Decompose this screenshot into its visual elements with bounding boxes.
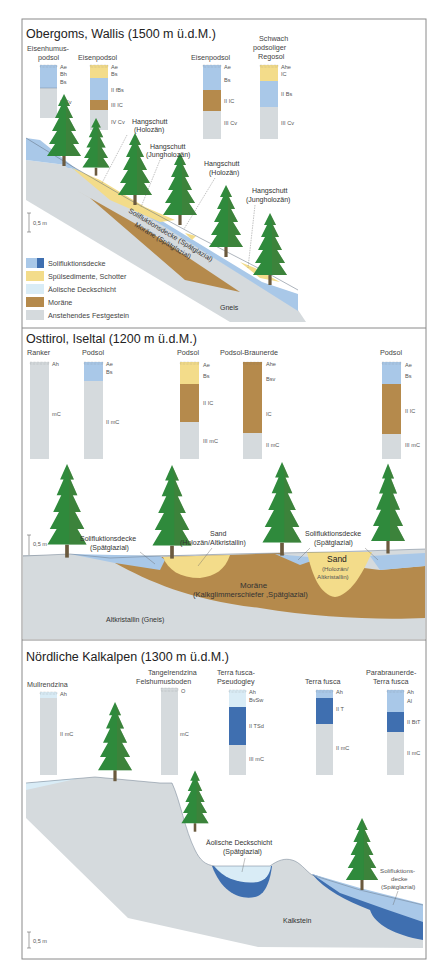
svg-text:II mC: II mC <box>266 442 279 448</box>
svg-text:(Holozän/Altkristallin): (Holozän/Altkristallin) <box>180 539 246 547</box>
svg-text:Ah: Ah <box>249 689 256 695</box>
svg-text:Bsv: Bsv <box>266 376 276 382</box>
svg-text:(Spätglazial): (Spätglazial) <box>223 848 262 856</box>
soil-profile: Parabraunerde- Terra fusca Ah Al II BtT … <box>366 668 421 775</box>
horizon-label: Bh <box>60 71 67 77</box>
svg-text:Ah: Ah <box>60 691 67 697</box>
svg-text:(Holozän/: (Holozän/ <box>322 565 349 572</box>
profile-name: podsol <box>38 53 60 62</box>
svg-text:Parabraunerde-: Parabraunerde- <box>366 668 417 677</box>
soil-profile: Tangelrendzina Felshumusboden O mC <box>136 668 197 775</box>
profile-name: Schwach <box>259 34 288 43</box>
svg-text:Pseudogley: Pseudogley <box>217 677 255 686</box>
soil-profile: Terra fusca Ah II T II mC <box>305 677 349 775</box>
svg-text:Ae: Ae <box>106 361 113 367</box>
svg-text:Äolische Deckschicht: Äolische Deckschicht <box>206 839 272 846</box>
svg-text:Hangschutt: Hangschutt <box>150 143 185 151</box>
horizon-label: Ae <box>111 64 118 70</box>
horizon-label: III Cv <box>281 120 294 126</box>
svg-text:IC: IC <box>266 411 272 417</box>
soil-profile: Ranker Ah mC <box>27 348 61 459</box>
horizon-label: IC <box>281 71 287 77</box>
svg-text:(Jungholozän): (Jungholozän) <box>146 151 190 159</box>
panel-title: Nördliche Kalkalpen (1300 m ü.d.M.) <box>26 650 229 664</box>
horizon-label: Ae <box>224 64 231 70</box>
horizon-label: III IC <box>111 102 123 108</box>
panel-title: Obergoms, Wallis (1500 m ü.d.M.) <box>26 27 216 41</box>
svg-text:BvSw: BvSw <box>249 697 264 703</box>
profile-name: Eisenpodsol <box>191 53 231 62</box>
layer-label: Gneis <box>220 304 239 311</box>
svg-text:(Holozän): (Holozän) <box>134 126 164 134</box>
svg-text:Solifluktionsdecke: Solifluktionsdecke <box>305 530 361 537</box>
soil-profile: Podsol-Braunerde Ahe Bsv IC II mC <box>220 348 279 459</box>
svg-text:Mullrendzina: Mullrendzina <box>27 680 68 689</box>
svg-text:Solifluktionsdecke: Solifluktionsdecke <box>80 535 136 542</box>
soil-profile: Eisenpodsol Ae Bs II IC III Cv <box>191 53 237 139</box>
svg-text:(Spätglazial): (Spätglazial) <box>90 544 129 552</box>
svg-text:III mC: III mC <box>203 438 218 444</box>
legend-item: Äolische Deckschicht <box>48 285 116 294</box>
svg-text:II mC: II mC <box>106 419 119 425</box>
soil-profile: Terra fusca- Pseudogley Ah BvSw II TSd I… <box>217 668 264 775</box>
svg-text:II BtT: II BtT <box>407 719 421 725</box>
soil-profile: Podsol Ae Bs II IC III mC <box>380 348 420 459</box>
svg-text:Hangschutt: Hangschutt <box>132 118 167 126</box>
svg-text:Ahe: Ahe <box>266 361 276 367</box>
svg-text:0,5 m: 0,5 m <box>33 541 47 547</box>
svg-text:Podsol-Braunerde: Podsol-Braunerde <box>220 348 278 357</box>
soil-profile: Podsol Ae Bs II IC III mC <box>177 348 218 459</box>
svg-text:II mC: II mC <box>60 731 73 737</box>
panel-osttirol: Osttirol, Iseltal (1200 m ü.d.M.) Ranker… <box>23 332 425 639</box>
legend-item: Spülsedimente, Schotter <box>48 272 127 281</box>
layer-label: Kalkstein <box>283 917 312 924</box>
legend: Solifluktionsdecke Spülsedimente, Schott… <box>26 258 129 320</box>
svg-text:Sand: Sand <box>210 530 226 537</box>
soil-profile: Eisenpodsol Ae Bs II fBs III IC IV Cv <box>78 53 125 130</box>
soil-profile: Podsol Ae Bs II mC <box>82 348 119 459</box>
horizon-label: II fBs <box>111 87 124 93</box>
svg-text:II mC: II mC <box>407 750 420 756</box>
svg-text:Ah: Ah <box>407 689 414 695</box>
layer-label: Altkristallin (Gneis) <box>106 616 164 624</box>
svg-text:0,5 m: 0,5 m <box>33 938 47 944</box>
svg-text:Podsol: Podsol <box>82 348 104 357</box>
svg-text:Ae: Ae <box>405 362 412 368</box>
legend-item: Moräne <box>48 298 72 307</box>
svg-text:II TSd: II TSd <box>249 723 264 729</box>
svg-text:(Spätglazial): (Spätglazial) <box>314 539 353 547</box>
profile-name: Regosol <box>258 52 285 61</box>
svg-text:0,5 m: 0,5 m <box>33 220 47 226</box>
svg-text:II T: II T <box>336 706 345 712</box>
svg-text:Ae: Ae <box>203 362 210 368</box>
svg-text:Tangelrendzina: Tangelrendzina <box>148 668 197 677</box>
horizon-label: III Cv <box>224 120 237 126</box>
svg-text:Altkristallin): Altkristallin) <box>317 573 349 580</box>
soil-profile: Schwach podsoliger Regosol Ahe IC II Bs … <box>253 34 294 139</box>
horizon-label: Ae <box>60 64 67 70</box>
svg-text:Bs: Bs <box>106 369 113 375</box>
svg-text:Bs: Bs <box>405 373 412 379</box>
svg-text:mC: mC <box>52 411 61 417</box>
profile-name: Eisenpodsol <box>78 53 118 62</box>
layer-label: (Kalkglimmerschiefer ,Spätglazial) <box>193 590 308 599</box>
svg-text:(Holozän): (Holozän) <box>209 169 239 177</box>
svg-text:Ah: Ah <box>336 689 343 695</box>
svg-text:III mC: III mC <box>249 756 264 762</box>
svg-text:Podsol: Podsol <box>380 348 402 357</box>
svg-text:Felshumusboden: Felshumusboden <box>136 677 191 686</box>
soil-profile-figure: Obergoms, Wallis (1500 m ü.d.M.) Eisenhu… <box>0 0 446 980</box>
svg-text:Ranker: Ranker <box>27 348 51 357</box>
svg-text:Sand: Sand <box>327 554 347 564</box>
svg-text:II mC: II mC <box>336 745 349 751</box>
layer-label: Moräne <box>240 581 268 590</box>
svg-text:Bs: Bs <box>203 373 210 379</box>
svg-text:mC: mC <box>180 731 189 737</box>
svg-text:III mC: III mC <box>405 442 420 448</box>
soil-profile: Mullrendzina Ah II mC <box>27 680 73 775</box>
horizon-label: IV Cv <box>111 119 125 125</box>
scale-bar: 0,5 m <box>27 932 47 948</box>
horizon-label: Bs <box>60 79 67 85</box>
svg-text:II IC: II IC <box>203 400 213 406</box>
svg-text:(Jungholozän): (Jungholozän) <box>246 196 290 204</box>
